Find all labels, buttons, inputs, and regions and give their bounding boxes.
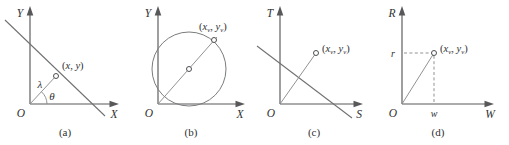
figure-root: Y X O λ θ (x, y) (a) Y X O (xv, yv): [0, 0, 509, 145]
panel-b-point-marker: [212, 38, 217, 43]
panel-c-point-marker: [314, 51, 319, 56]
panel-d-point-marker: [432, 51, 437, 56]
panel-b-origin-label: O: [145, 107, 154, 119]
panel-a-caption: (a): [59, 126, 72, 139]
panel-c-s-axis-arrowhead: [354, 101, 364, 108]
panel-a-x-axis-arrowhead: [110, 101, 120, 108]
panel-c-t-axis-arrowhead: [277, 6, 284, 16]
panel-a-point-close-paren: ): [80, 60, 84, 72]
panel-c-caption: (c): [308, 126, 321, 139]
panel-a-x-axis-label: X: [109, 108, 118, 120]
panel-b-caption: (b): [185, 126, 198, 139]
panel-a-point-marker: [54, 74, 59, 79]
panel-a-lambda-label: λ: [37, 78, 43, 90]
panel-c-origin-ray: [280, 53, 316, 104]
panel-a: Y X O λ θ (x, y) (a): [0, 0, 130, 145]
panel-a-theta-arc: [42, 92, 48, 104]
panel-d-r-axis-arrowhead: [399, 6, 406, 16]
panel-b-x-axis-label: X: [235, 108, 244, 120]
panel-a-theta-label: θ: [49, 90, 55, 102]
panel-c-point-label: (xv, yv): [322, 43, 350, 55]
panel-a-y-axis-label: Y: [17, 7, 25, 19]
panel-b-x-axis-arrowhead: [236, 101, 246, 108]
panel-d-w-tick-label: w: [431, 108, 438, 119]
panel-b-point-label: (xv, yv): [199, 21, 227, 33]
panel-d-r-axis-label: R: [387, 7, 395, 19]
panel-b-point-close-paren: ): [223, 21, 227, 33]
panel-d-point-label: (xv, yv): [440, 43, 468, 55]
panel-a-origin-label: O: [17, 107, 26, 119]
panel-c-point-close-paren: ): [346, 43, 350, 55]
panel-b-center-marker: [187, 67, 192, 72]
panel-d-w-axis-label: W: [485, 108, 496, 120]
panel-d-origin-label: O: [389, 107, 398, 119]
panel-a-normal-line: [5, 20, 105, 116]
panel-d-caption: (d): [432, 126, 445, 139]
panel-d-w-axis-arrowhead: [485, 101, 495, 108]
panel-d: R W O r w (xv, yv) (d): [378, 0, 509, 145]
panel-a-point-label: (x, y): [62, 60, 84, 72]
panel-b-y-axis-label: Y: [145, 7, 153, 19]
panel-d-origin-ray: [402, 53, 434, 104]
panel-d-point-close-paren: ): [464, 43, 468, 55]
panel-b: Y X O (xv, yv) (b): [126, 0, 256, 145]
panel-c: T S O (xv, yv) (c): [252, 0, 382, 145]
panel-c-t-axis-label: T: [267, 7, 275, 19]
panel-a-y-axis-arrowhead: [27, 6, 34, 16]
panel-d-r-tick-label: r: [391, 48, 395, 59]
panel-c-origin-label: O: [267, 107, 276, 119]
panel-c-s-axis-label: S: [356, 108, 362, 120]
panel-b-y-axis-arrowhead: [155, 6, 162, 16]
